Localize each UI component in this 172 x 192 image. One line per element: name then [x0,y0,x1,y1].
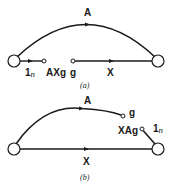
label-1n: 1n [153,123,164,135]
arrow-icon [109,59,114,63]
label-g: g [129,107,135,118]
arrow-icon [28,59,33,63]
terminal-node-g [71,59,75,63]
terminal-node-g [121,114,125,118]
arrow-icon [85,23,90,27]
terminal-node-xag [140,127,144,131]
node-left [8,55,20,67]
label-x: X [107,67,114,78]
caption-a: (a) [80,81,90,90]
branch-a-arc [16,108,121,144]
label-a: A [84,7,91,18]
diagram-b: A g XAg 1n X (b) [8,95,164,182]
arrow-icon [84,147,89,151]
label-axg: AXg [46,67,66,78]
signal-flow-graphs: A 1n AXg g X (a) A g XAg 1n X [0,0,172,192]
arrow-icon [79,107,84,111]
label-x: X [83,156,90,167]
label-1n: 1n [25,67,36,79]
terminal-node-axg [42,59,46,63]
label-g: g [70,67,76,78]
caption-b: (b) [80,173,90,182]
node-right [152,55,164,67]
node-left [8,143,20,155]
label-a: A [84,95,91,106]
label-xag: XAg [118,125,138,136]
node-right [152,143,164,155]
branch-a-arc [17,25,155,58]
diagram-a: A 1n AXg g X (a) [8,7,164,90]
